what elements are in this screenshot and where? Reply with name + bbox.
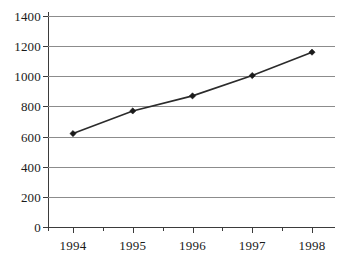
line-chart: 0200400600800100012001400 19941995199619… (0, 0, 347, 272)
x-minor-tick-3 (222, 227, 223, 231)
x-minor-tick-1 (103, 227, 104, 231)
data-point-1997 (249, 72, 255, 78)
x-minor-tick-4 (282, 227, 283, 231)
y-axis-label-400: 400 (21, 160, 41, 173)
data-series (48, 16, 335, 227)
y-axis-label-200: 200 (21, 190, 41, 203)
data-point-1998 (309, 49, 315, 55)
y-axis-label-1200: 1200 (14, 40, 41, 53)
data-point-1996 (189, 93, 195, 99)
x-axis-line (48, 227, 335, 228)
x-tick-1995 (133, 227, 134, 233)
x-tick-1994 (73, 227, 74, 233)
x-axis-label-1997: 1997 (239, 239, 266, 252)
y-axis-label-1000: 1000 (14, 70, 41, 83)
x-axis-label-1998: 1998 (299, 239, 326, 252)
y-axis-label-1400: 1400 (14, 10, 41, 23)
x-tick-1996 (193, 227, 194, 233)
x-tick-1997 (252, 227, 253, 233)
data-point-1994 (70, 130, 76, 136)
x-tick-1998 (312, 227, 313, 233)
x-axis-label-1995: 1995 (119, 239, 146, 252)
y-tick-0 (43, 227, 48, 228)
y-axis-label-800: 800 (21, 100, 41, 113)
plot-area: 0200400600800100012001400 19941995199619… (48, 16, 335, 227)
x-axis-label-1994: 1994 (60, 239, 87, 252)
x-minor-tick-2 (163, 227, 164, 231)
y-axis-label-0: 0 (34, 221, 41, 234)
y-axis-label-600: 600 (21, 130, 41, 143)
series-markers (70, 49, 315, 137)
x-axis-label-1996: 1996 (179, 239, 206, 252)
data-point-1995 (130, 108, 136, 114)
